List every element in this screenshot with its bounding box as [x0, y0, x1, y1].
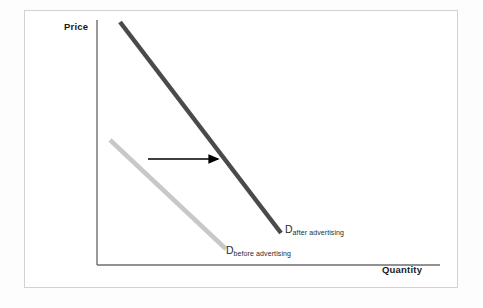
- curve-label-before-advertising: Dbefore advertising: [226, 245, 291, 256]
- curve-label-after-main: D: [285, 223, 293, 235]
- plot-canvas: [0, 0, 483, 308]
- y-axis-label: Price: [64, 21, 88, 32]
- curve-label-before-subscript: before advertising: [234, 250, 291, 257]
- demand-curve-after: [120, 22, 281, 233]
- demand-curve-before: [110, 140, 226, 249]
- x-axis-label: Quantity: [382, 264, 422, 275]
- curve-label-before-main: D: [226, 244, 234, 256]
- curve-label-after-advertising: Dafter advertising: [285, 224, 344, 235]
- demand-shift-figure: Price Quantity Dafter advertising Dbefor…: [0, 0, 483, 308]
- curve-label-after-subscript: after advertising: [293, 229, 345, 236]
